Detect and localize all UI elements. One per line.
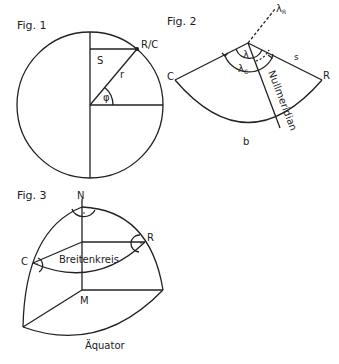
fig1-point-rc [136, 48, 139, 51]
fig1-label-s: S [97, 55, 103, 66]
fig1-label-rc: R/C [141, 39, 158, 50]
fig2-label-b: b [243, 136, 249, 147]
fig2-side-r [248, 43, 322, 80]
fig2-label-lambda-c: λC [238, 63, 248, 75]
fig2 [175, 9, 322, 128]
fig2-arc-b [175, 80, 322, 123]
fig3-equator-arc [23, 290, 163, 335]
fig3-label-m: M [80, 295, 89, 306]
fig3-label-c: C [21, 256, 28, 267]
fig2-label-lambda-r: λR [276, 3, 286, 15]
fig2-side-c [175, 43, 248, 80]
fig3-angle-r [131, 235, 140, 252]
fig1-title: Fig. 1 [17, 19, 47, 32]
fig2-label-s: s [294, 52, 299, 62]
fig3-equator-radius-left [23, 290, 82, 327]
fig2-title: Fig. 2 [167, 15, 197, 28]
fig1 [17, 32, 163, 178]
fig2-label-nullmeridian: Nullmeridian [266, 69, 299, 132]
fig2-lambda-arc [236, 49, 262, 58]
fig3 [23, 199, 163, 335]
fig3-label-r: R [147, 232, 154, 243]
fig2-label-c: C [167, 71, 174, 82]
fig3-label-n: N [77, 190, 84, 201]
fig3-label-aequator: Äquator [85, 339, 126, 351]
fig2-label-lambda: λ [243, 49, 249, 60]
fig1-label-r: r [120, 69, 125, 80]
diagram-canvas: Fig. 1 R/C S r φ Fig. 2 C R b s λ λC λR … [0, 0, 339, 364]
fig3-title: Fig. 3 [17, 189, 47, 202]
fig2-label-r: R [323, 70, 330, 81]
fig3-label-breitenkreis: Breitenkreis [59, 254, 119, 265]
fig2-lambda-r-dashed [248, 9, 275, 43]
fig1-label-phi: φ [103, 92, 110, 103]
